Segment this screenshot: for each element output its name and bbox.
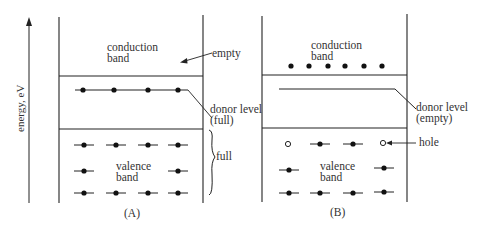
caption-a: (A): [124, 208, 140, 219]
donor-electron: [80, 87, 85, 92]
donor-level-a: [75, 87, 212, 118]
hole: [380, 140, 385, 145]
donor-level-b: [279, 89, 416, 109]
donor-level-label-a: donor level (full): [210, 104, 262, 126]
full-label: full: [216, 151, 232, 162]
conduction-electrons-b: [288, 63, 384, 68]
valence-band-label-b: valence band: [320, 161, 355, 183]
conduction-band-label-a: conduction band: [107, 42, 158, 64]
conduction-band-label-b: conduction band: [311, 40, 362, 62]
hole: [285, 141, 290, 146]
hole-label: hole: [419, 137, 439, 148]
donor-electron: [111, 87, 116, 92]
empty-pointer-arrow: [180, 53, 212, 64]
donor-electron: [175, 87, 180, 92]
valence-band-label-a: valence band: [116, 161, 151, 183]
energy-axis-label: energy, eV: [14, 85, 26, 132]
donor-electron: [145, 87, 150, 92]
caption-b: (B): [330, 207, 345, 218]
donor-level-label-b: donor level (empty): [416, 102, 468, 124]
full-brace: [209, 130, 215, 195]
energy-axis-arrow: [26, 17, 32, 203]
hole-pointer-arrow: [386, 141, 416, 146]
empty-label: empty: [212, 48, 241, 59]
